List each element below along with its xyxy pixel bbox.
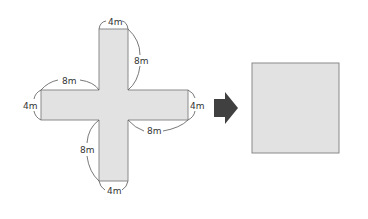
label-bottom-arm-length: 8m (80, 145, 95, 155)
cross-shape (41, 29, 188, 181)
label-top-width: 4m (108, 17, 123, 27)
right-arrow-icon (214, 92, 238, 124)
label-left-height: 4m (23, 101, 38, 111)
label-left-arm-length: 8m (62, 76, 77, 86)
label-top-arm-length: 8m (134, 56, 149, 66)
label-right-arm-length: 8m (147, 126, 162, 136)
label-right-height: 4m (190, 101, 205, 111)
diagram-canvas: 4m 8m 8m 4m 4m 8m 8m 4m (0, 0, 368, 219)
result-square (252, 63, 339, 153)
label-bottom-width: 4m (107, 186, 122, 196)
